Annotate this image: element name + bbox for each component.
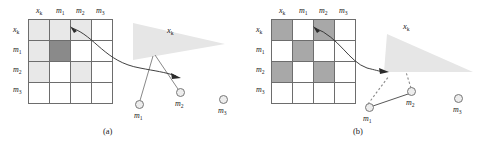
panel-b-caption: (b) bbox=[353, 126, 363, 136]
panel-b-edge-m1-m2 bbox=[370, 93, 411, 107]
panel-a-node-m3 bbox=[219, 95, 228, 104]
panel-a-label-robot-pose: xk bbox=[167, 26, 174, 35]
panel-a-label-m3: m3 bbox=[218, 107, 227, 115]
panel-b-dashed-edge-m1 bbox=[368, 76, 389, 104]
panel-a: xk m1 m2 m3 xk m1 m2 m3 m1 m2 m3 xk bbox=[0, 0, 242, 144]
panel-b-label-m3: m3 bbox=[453, 106, 462, 114]
panel-a-label-m1: m1 bbox=[134, 112, 143, 120]
panel-a-node-m1 bbox=[135, 100, 144, 109]
panel-b-view-cone bbox=[384, 34, 473, 72]
panel-a-scene-overlay bbox=[0, 0, 242, 144]
panel-a-caption: (a) bbox=[103, 126, 112, 136]
panel-b-label-m2: m2 bbox=[406, 99, 415, 107]
panel-a-node-m2 bbox=[176, 88, 185, 97]
figure-container: xk m1 m2 m3 xk m1 m2 m3 m1 m2 m3 xk bbox=[0, 0, 485, 144]
panel-b-curved-arrow-path bbox=[315, 28, 383, 72]
panel-b-node-m1 bbox=[365, 103, 374, 112]
panel-b-dashed-edge-m2 bbox=[406, 72, 411, 88]
panel-b-label-m1: m1 bbox=[363, 115, 372, 123]
panel-a-ray-to-m1 bbox=[139, 56, 153, 104]
panel-a-curved-arrow-head bbox=[171, 73, 181, 79]
panel-a-view-cone bbox=[133, 23, 225, 60]
panel-a-label-m2: m2 bbox=[175, 100, 184, 108]
panel-b-label-robot-pose: xk bbox=[403, 22, 410, 31]
panel-b: xk m1 m2 m3 xk m1 m2 m3 m1 m2 m3 xk (b bbox=[243, 0, 485, 144]
panel-b-node-m3 bbox=[454, 94, 463, 103]
panel-b-node-m2 bbox=[407, 87, 416, 96]
